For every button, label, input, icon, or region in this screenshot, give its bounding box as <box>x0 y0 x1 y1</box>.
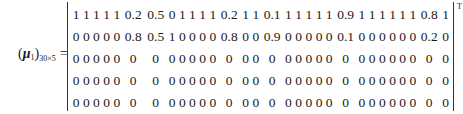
matrix-cell: 1 <box>112 7 122 23</box>
matrix-cell: 1 <box>408 7 418 23</box>
matrix-cell: 0 <box>387 95 397 111</box>
matrix-cell: 0 <box>398 51 408 67</box>
matrix-cell: 0 <box>294 51 304 67</box>
matrix-cell: 1 <box>441 7 451 23</box>
matrix-cell: 1 <box>187 7 197 23</box>
matrix-cell: 1 <box>102 7 112 23</box>
matrix-cell: 0 <box>144 73 167 89</box>
matrix-cell: 0 <box>334 95 357 111</box>
matrix-cell: 0 <box>122 51 145 67</box>
matrix-cell: 0 <box>208 73 218 89</box>
matrix-cell: 0 <box>81 95 91 111</box>
matrix-cell: 0.1 <box>261 7 284 23</box>
matrix-cell: 0 <box>367 73 377 89</box>
matrix-cell: 0.2 <box>122 7 145 23</box>
matrix-cell: 0 <box>112 73 122 89</box>
matrix-cell: 0 <box>294 73 304 89</box>
matrix-cell: 0 <box>334 51 357 67</box>
matrix-cell: 0 <box>112 29 122 45</box>
matrix-cell: 1 <box>387 7 397 23</box>
matrix-cell: 0 <box>441 95 451 111</box>
matrix-label: (μ1)30×5= <box>18 46 68 63</box>
matrix-cell: 0 <box>240 29 250 45</box>
matrix-cell: 1 <box>198 7 208 23</box>
matrix-cell: 0 <box>408 29 418 45</box>
matrix-cell: 0 <box>177 73 187 89</box>
matrix-row: 111110.20.5011110.2110.1111110.91111110.… <box>71 4 451 26</box>
matrix-cell: 0 <box>324 95 334 111</box>
matrix-cell: 0 <box>198 29 208 45</box>
matrix-cell: 0 <box>112 51 122 67</box>
matrix-cell: 1 <box>377 7 387 23</box>
matrix-cell: 0 <box>81 29 91 45</box>
matrix-cell: 0 <box>367 51 377 67</box>
matrix-cell: 0 <box>251 51 261 67</box>
matrix-cell: 0 <box>208 95 218 111</box>
matrix-cell: 0.8 <box>218 29 241 45</box>
matrix-cell: 1 <box>398 7 408 23</box>
matrix-cell: 0 <box>187 95 197 111</box>
matrix-cell: 0.1 <box>334 29 357 45</box>
matrix-cell: 0 <box>357 73 367 89</box>
matrix-cell: 0 <box>177 29 187 45</box>
matrix-cell: 0.2 <box>418 29 441 45</box>
matrix-cell: 0 <box>283 29 293 45</box>
matrix-cell: 0 <box>304 51 314 67</box>
matrix-cell: 0 <box>240 51 250 67</box>
matrix-cell: 0 <box>71 29 81 45</box>
matrix-cell: 0 <box>122 73 145 89</box>
matrix-cell: 0 <box>387 73 397 89</box>
matrix-cell: 0 <box>304 73 314 89</box>
matrix-cell: 0 <box>418 73 441 89</box>
matrix-cell: 0 <box>261 73 284 89</box>
matrix-cell: 0 <box>71 51 81 67</box>
matrix-cell: 0 <box>283 73 293 89</box>
matrix-cell: 0.8 <box>418 7 441 23</box>
matrix-cell: 0 <box>218 73 241 89</box>
matrix-cell: 0 <box>71 73 81 89</box>
matrix-cell: 0 <box>122 95 145 111</box>
matrix-cell: 1 <box>324 7 334 23</box>
matrix-cell: 0 <box>357 29 367 45</box>
matrix-cell: 1 <box>304 7 314 23</box>
matrix-cell: 0 <box>167 51 177 67</box>
matrix-cell: 0 <box>367 95 377 111</box>
left-determinant-bar <box>67 2 68 111</box>
matrix-cell: 0 <box>144 95 167 111</box>
matrix-cell: 0 <box>81 73 91 89</box>
matrix-dimension: 30×5 <box>39 54 56 63</box>
matrix-cell: 0 <box>261 51 284 67</box>
matrix-cell: 0 <box>187 51 197 67</box>
matrix-cell: 0 <box>357 51 367 67</box>
matrix-cell: 1 <box>367 7 377 23</box>
matrix-cell: 0 <box>314 73 324 89</box>
matrix-body: 111110.20.5011110.2110.1111110.91111110.… <box>71 4 451 114</box>
matrix-cell: 0 <box>112 95 122 111</box>
matrix-cell: 0 <box>251 29 261 45</box>
matrix-cell: 0.2 <box>218 7 241 23</box>
matrix-cell: 0 <box>283 95 293 111</box>
matrix-cell: 0 <box>167 95 177 111</box>
matrix-cell: 0 <box>324 51 334 67</box>
matrix-cell: 0 <box>167 7 177 23</box>
matrix-cell: 0 <box>324 29 334 45</box>
matrix-cell: 0 <box>377 73 387 89</box>
matrix-cell: 1 <box>167 29 177 45</box>
matrix-cell: 1 <box>177 7 187 23</box>
matrix-cell: 0 <box>218 95 241 111</box>
matrix-cell: 0 <box>294 95 304 111</box>
matrix-cell: 0.5 <box>144 7 167 23</box>
matrix-cell: 0 <box>398 29 408 45</box>
matrix-cell: 0 <box>240 73 250 89</box>
matrix-cell: 0 <box>251 95 261 111</box>
matrix-cell: 0 <box>304 95 314 111</box>
matrix-cell: 0 <box>198 73 208 89</box>
matrix-cell: 0 <box>357 95 367 111</box>
matrix-cell: 0 <box>91 29 101 45</box>
matrix-cell: 1 <box>240 7 250 23</box>
matrix-cell: 0.8 <box>122 29 145 45</box>
matrix-cell: 0.9 <box>334 7 357 23</box>
matrix-cell: 0 <box>418 51 441 67</box>
matrix-cell: 0 <box>304 29 314 45</box>
matrix-cell: 0 <box>441 73 451 89</box>
